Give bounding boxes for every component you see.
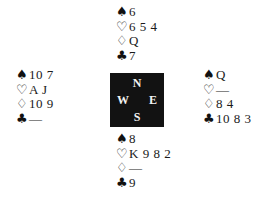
diamond-icon: ♢ [116,34,129,48]
compass-east-label: E [149,94,157,106]
east-spades-row: ♠ Q [203,68,252,83]
club-icon: ♣ [203,112,216,126]
west-hearts-cards: A J [29,83,47,98]
compass-north-label: N [110,77,164,89]
south-clubs-row: ♣ 9 [116,176,171,191]
spade-icon: ♠ [116,5,129,19]
east-clubs-cards: 10 8 3 [216,112,252,127]
east-diamonds-cards: 8 4 [216,97,234,112]
west-hand: ♠ 10 7 ♡ A J ♢ 10 9 ♣ — [16,68,54,126]
west-diamonds-cards: 10 9 [29,97,54,112]
club-icon: ♣ [116,176,129,190]
north-diamonds-row: ♢ Q [116,34,158,49]
south-spades-row: ♠ 8 [116,132,171,147]
heart-icon: ♡ [16,83,29,97]
heart-icon: ♡ [203,83,216,97]
west-clubs-row: ♣ — [16,112,54,127]
diamond-icon: ♢ [16,97,29,111]
north-hand: ♠ 6 ♡ 6 5 4 ♢ Q ♣ 7 [116,5,158,63]
spade-icon: ♠ [16,68,29,82]
south-diamonds-cards: — [129,161,143,176]
south-clubs-cards: 9 [129,176,136,191]
east-diamonds-row: ♢ 8 4 [203,97,252,112]
spade-icon: ♠ [203,68,216,82]
east-hand: ♠ Q ♡ — ♢ 8 4 ♣ 10 8 3 [203,68,252,126]
east-spades-cards: Q [216,68,226,83]
diamond-icon: ♢ [116,161,129,175]
north-diamonds-cards: Q [129,34,139,49]
west-spades-cards: 10 7 [29,68,54,83]
club-icon: ♣ [116,49,129,63]
spade-icon: ♠ [116,132,129,146]
north-hearts-row: ♡ 6 5 4 [116,20,158,35]
west-hearts-row: ♡ A J [16,83,54,98]
heart-icon: ♡ [116,20,129,34]
south-hearts-cards: K 9 8 2 [129,147,171,162]
north-spades-row: ♠ 6 [116,5,158,20]
east-hearts-cards: — [216,83,230,98]
compass-box: N W E S [110,73,164,127]
west-diamonds-row: ♢ 10 9 [16,97,54,112]
east-hearts-row: ♡ — [203,83,252,98]
north-hearts-cards: 6 5 4 [129,20,158,35]
north-spades-cards: 6 [129,5,136,20]
north-clubs-cards: 7 [129,49,136,64]
south-hand: ♠ 8 ♡ K 9 8 2 ♢ — ♣ 9 [116,132,171,190]
west-clubs-cards: — [29,112,43,127]
diamond-icon: ♢ [203,97,216,111]
south-spades-cards: 8 [129,132,136,147]
club-icon: ♣ [16,112,29,126]
south-diamonds-row: ♢ — [116,161,171,176]
heart-icon: ♡ [116,147,129,161]
compass-south-label: S [110,111,164,123]
east-clubs-row: ♣ 10 8 3 [203,112,252,127]
north-clubs-row: ♣ 7 [116,49,158,64]
south-hearts-row: ♡ K 9 8 2 [116,147,171,162]
compass-west-label: W [117,94,129,106]
west-spades-row: ♠ 10 7 [16,68,54,83]
